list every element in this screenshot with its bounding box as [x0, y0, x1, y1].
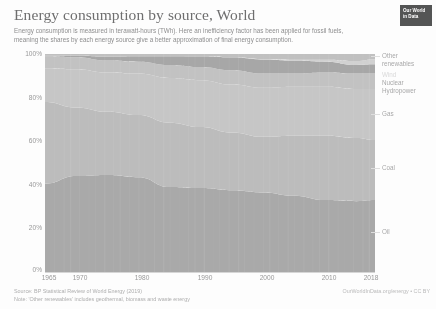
scan-striation	[263, 54, 264, 272]
scan-striation	[344, 54, 345, 272]
scan-striation	[120, 54, 121, 272]
logo-line-2: in Data	[403, 14, 430, 20]
scan-striation	[244, 54, 245, 272]
y-axis-label-80: 80%	[14, 94, 42, 101]
leader-line-gas	[371, 114, 380, 115]
series-label-text: Nuclear	[382, 79, 404, 87]
x-axis-label-1990: 1990	[198, 274, 213, 281]
scan-striation	[288, 54, 289, 272]
chart-footnotes: Source: BP Statistical Review of World E…	[14, 288, 190, 303]
leader-line-oil	[371, 232, 380, 233]
scan-striation	[362, 54, 363, 272]
scan-striation	[104, 54, 105, 272]
stacked-area-plot	[45, 54, 375, 272]
series-label-hydropower[interactable]: Hydropower	[382, 87, 416, 95]
series-label-text-line2: renewables	[382, 60, 414, 68]
page-title: Energy consumption by source, World	[14, 6, 255, 24]
x-axis-label-2010: 2010	[322, 274, 337, 281]
scan-striation	[89, 54, 90, 272]
leader-line-other-renewables	[371, 56, 380, 57]
y-axis-label-60: 60%	[14, 137, 42, 144]
scan-striation	[170, 54, 171, 272]
scan-striation	[138, 54, 139, 272]
scan-striation	[95, 54, 96, 272]
chart-page: Energy consumption by source, World Ener…	[0, 0, 436, 309]
series-label-other-renewables[interactable]: Otherrenewables	[382, 52, 414, 68]
y-axis-label-20: 20%	[14, 224, 42, 231]
scan-striation	[194, 54, 195, 272]
series-label-coal[interactable]: Coal	[382, 164, 395, 172]
x-axis-label-2000: 2000	[260, 274, 275, 281]
scan-striation	[64, 54, 65, 272]
note-text: Note: 'Other renewables' includes geothe…	[14, 296, 190, 304]
series-label-oil[interactable]: Oil	[382, 228, 390, 236]
scan-striation	[188, 54, 189, 272]
scan-striation	[319, 54, 320, 272]
scan-striation	[163, 54, 164, 272]
scan-striation	[254, 54, 255, 272]
series-label-wind[interactable]: Wind	[382, 71, 396, 79]
x-axis-label-2018: 2018	[364, 274, 379, 281]
scan-striation	[294, 54, 295, 272]
series-label-text: Gas	[382, 110, 394, 118]
scan-striation	[213, 54, 214, 272]
x-axis-label-1965: 1965	[42, 274, 57, 281]
page-subtitle: Energy consumption is measured in terawa…	[14, 26, 366, 44]
scan-striation	[45, 54, 46, 272]
y-axis-label-40: 40%	[14, 181, 42, 188]
scan-striation	[303, 54, 304, 272]
credit-link[interactable]: OurWorldInData.org/energy • CC BY	[343, 288, 430, 294]
scan-striation	[129, 54, 130, 272]
x-axis-line	[45, 272, 375, 273]
scan-striation	[328, 54, 329, 272]
scan-striation	[269, 54, 270, 272]
scan-striation	[369, 54, 370, 272]
series-label-text: Oil	[382, 228, 390, 236]
chart-svg	[45, 54, 375, 272]
scan-striation	[219, 54, 220, 272]
source-text: Source: BP Statistical Review of World E…	[14, 288, 190, 296]
y-axis-label-0: 0%	[14, 266, 42, 273]
scan-striation	[278, 54, 279, 272]
series-label-nuclear[interactable]: Nuclear	[382, 79, 404, 87]
scan-striation	[54, 54, 55, 272]
our-world-in-data-logo[interactable]: Our World in Data	[400, 5, 432, 26]
leader-line-coal	[371, 168, 380, 169]
scan-striation	[229, 54, 230, 272]
series-label-text: Hydropower	[382, 87, 416, 95]
scan-striation	[353, 54, 354, 272]
scan-striation	[204, 54, 205, 272]
scan-striation	[313, 54, 314, 272]
x-axis-label-1970: 1970	[73, 274, 88, 281]
scan-striation	[179, 54, 180, 272]
scan-striation	[154, 54, 155, 272]
series-label-text: Other	[382, 52, 414, 60]
series-label-text: Coal	[382, 164, 395, 172]
y-axis-label-100: 100%	[14, 50, 42, 57]
series-label-gas[interactable]: Gas	[382, 110, 394, 118]
scan-striation	[145, 54, 146, 272]
scan-striation	[79, 54, 80, 272]
x-axis-label-1980: 1980	[135, 274, 150, 281]
scan-striation	[238, 54, 239, 272]
scan-striation	[338, 54, 339, 272]
scan-striation	[70, 54, 71, 272]
scan-striation	[113, 54, 114, 272]
series-label-text: Wind	[382, 71, 396, 79]
